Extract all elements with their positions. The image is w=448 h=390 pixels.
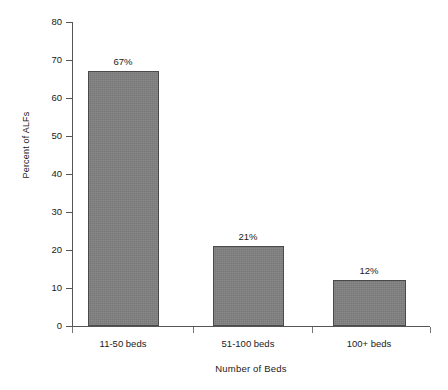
y-axis-tick	[66, 98, 73, 99]
bar-value-label: 21%	[188, 231, 308, 242]
y-axis-tick	[66, 136, 73, 137]
y-axis-tick	[66, 212, 73, 213]
y-axis-tick-label: 30	[34, 207, 62, 217]
y-axis-title: Percent of ALFs	[21, 75, 31, 215]
y-axis-tick-label: 10	[34, 283, 62, 293]
y-axis-tick	[66, 22, 73, 23]
bar-value-label: 12%	[309, 265, 429, 276]
bar-51-100-beds	[213, 246, 284, 326]
bar-value-label: 67%	[63, 56, 183, 67]
x-axis-tick	[193, 327, 194, 333]
x-axis-line	[72, 326, 430, 327]
x-axis-title: Number of Beds	[72, 363, 430, 374]
y-axis-tick	[66, 250, 73, 251]
y-axis-tick-label: 50	[34, 131, 62, 141]
bar-11-50-beds	[88, 71, 159, 326]
y-axis-tick-label: 80	[34, 17, 62, 27]
y-axis-tick	[66, 288, 73, 289]
x-axis-tick	[430, 327, 431, 333]
x-axis-tick-label: 51-100 beds	[188, 338, 308, 349]
y-axis-tick-label: 60	[34, 93, 62, 103]
y-axis-tick-label: 20	[34, 245, 62, 255]
y-axis-tick-label: 70	[34, 55, 62, 65]
x-axis-tick-label: 100+ beds	[309, 338, 429, 349]
bar-chart: Percent of ALFs 80 70 60 50 40 30 20 10 …	[0, 0, 448, 390]
y-axis-tick-label: 0	[34, 321, 62, 331]
x-axis-tick-label: 11-50 beds	[63, 338, 183, 349]
x-axis-tick	[72, 327, 73, 333]
x-axis-tick	[312, 327, 313, 333]
y-axis-tick-label: 40	[34, 169, 62, 179]
y-axis-tick	[66, 174, 73, 175]
bar-100-plus-beds	[333, 280, 406, 326]
